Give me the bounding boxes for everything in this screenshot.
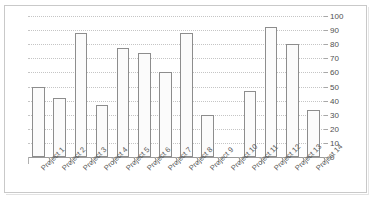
y-tick-mark-70 (324, 58, 328, 59)
y-axis-tick-label: 100 (330, 12, 360, 21)
y-tick-mark-80 (324, 44, 328, 45)
chart-frame-shadow-right (368, 7, 369, 195)
bar (75, 33, 88, 157)
gridline-90 (28, 30, 324, 31)
y-tick-mark-20 (324, 129, 328, 130)
y-axis-tick-label: 80 (330, 40, 360, 49)
bar (286, 44, 299, 157)
gridline-40 (28, 101, 324, 102)
y-axis-tick-label: 90 (330, 26, 360, 35)
gridline-80 (28, 44, 324, 45)
bar (180, 33, 193, 157)
y-axis-tick-label: 30 (330, 110, 360, 119)
y-tick-mark-40 (324, 101, 328, 102)
plot-area: 0102030405060708090100 Project 1Project … (28, 16, 324, 157)
bar (32, 87, 45, 158)
y-axis-tick-label: 20 (330, 124, 360, 133)
gridline-60 (28, 72, 324, 73)
chart-title (0, 0, 373, 4)
y-tick-mark-100 (324, 16, 328, 17)
y-axis-tick-label: 40 (330, 96, 360, 105)
bar-chart-figure: 0102030405060708090100 Project 1Project … (0, 0, 373, 203)
gridline-20 (28, 129, 324, 130)
chart-frame-shadow (6, 194, 369, 195)
y-axis-tick-label: 60 (330, 68, 360, 77)
x-tick-mark (28, 157, 29, 164)
gridline-70 (28, 58, 324, 59)
gridline-50 (28, 87, 324, 88)
y-tick-mark-30 (324, 115, 328, 116)
y-tick-mark-90 (324, 30, 328, 31)
y-axis-tick-label: 50 (330, 82, 360, 91)
y-tick-mark-60 (324, 72, 328, 73)
y-tick-mark-10 (324, 143, 328, 144)
y-axis-tick-label: 70 (330, 54, 360, 63)
gridline-100 (28, 16, 324, 17)
bar (265, 27, 278, 157)
bar (117, 48, 130, 157)
y-tick-mark-50 (324, 87, 328, 88)
gridline-10 (28, 143, 324, 144)
gridline-30 (28, 115, 324, 116)
bar (138, 53, 151, 157)
